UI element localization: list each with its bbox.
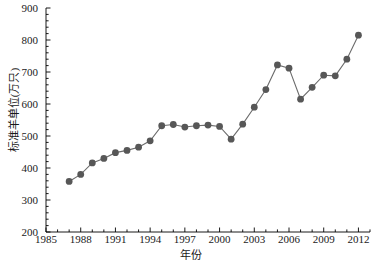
data-point-2000 bbox=[216, 123, 223, 130]
data-point-1993 bbox=[135, 144, 142, 151]
data-point-2001 bbox=[228, 136, 235, 143]
data-point-2009 bbox=[320, 72, 327, 79]
data-point-1994 bbox=[147, 137, 154, 144]
data-point-1997 bbox=[181, 124, 188, 131]
data-point-2004 bbox=[262, 86, 269, 93]
axis-lines bbox=[46, 8, 370, 232]
data-point-1991 bbox=[112, 149, 119, 156]
data-line bbox=[69, 35, 358, 181]
data-point-2006 bbox=[286, 65, 293, 72]
data-point-1990 bbox=[100, 155, 107, 162]
data-point-1987 bbox=[66, 178, 73, 185]
data-point-1995 bbox=[158, 122, 165, 129]
data-point-2010 bbox=[332, 72, 339, 79]
data-point-2003 bbox=[251, 104, 258, 111]
plot-area bbox=[0, 0, 382, 274]
data-point-1998 bbox=[193, 122, 200, 129]
data-point-2011 bbox=[343, 56, 350, 63]
axis-ticks bbox=[46, 8, 370, 232]
data-point-2012 bbox=[355, 32, 362, 39]
data-points bbox=[66, 32, 362, 185]
data-point-2008 bbox=[309, 84, 316, 91]
data-point-1999 bbox=[205, 122, 212, 129]
chart-container: 标准羊单位(万只) 年份 200300400500600700800900 19… bbox=[0, 0, 382, 274]
data-point-2007 bbox=[297, 96, 304, 103]
data-point-1996 bbox=[170, 121, 177, 128]
data-point-1988 bbox=[77, 171, 84, 178]
data-point-1992 bbox=[124, 147, 131, 154]
data-point-2002 bbox=[239, 121, 246, 128]
data-point-1989 bbox=[89, 159, 96, 166]
data-point-2005 bbox=[274, 62, 281, 69]
